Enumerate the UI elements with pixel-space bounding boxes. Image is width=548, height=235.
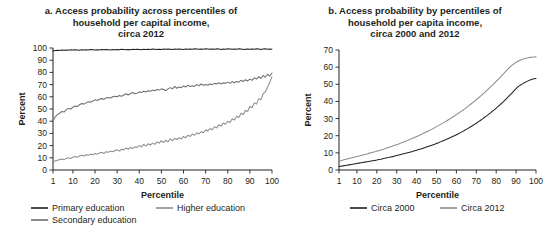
x-tick-label: 20 bbox=[372, 176, 382, 186]
chart-panel-a: a. Access probability across percentiles… bbox=[0, 0, 282, 235]
legend-label: Circa 2000 bbox=[371, 203, 415, 213]
y-axis-title: Percent bbox=[17, 92, 27, 125]
legend-label: Higher education bbox=[177, 203, 245, 213]
y-tick-label: 60 bbox=[324, 62, 334, 72]
y-tick-label: 60 bbox=[38, 92, 48, 102]
x-tick-label: 50 bbox=[432, 176, 442, 186]
legend-label: Secondary education bbox=[52, 215, 137, 225]
y-tick-label: 10 bbox=[38, 153, 48, 163]
y-tick-label: 30 bbox=[38, 128, 48, 138]
y-axis-title: Percent bbox=[303, 93, 313, 126]
x-tick-label: 100 bbox=[529, 176, 543, 186]
x-tick-label: 10 bbox=[352, 176, 362, 186]
x-tick-label: 60 bbox=[452, 176, 462, 186]
series-line bbox=[339, 57, 536, 162]
y-tick-label: 80 bbox=[38, 67, 48, 77]
y-tick-label: 20 bbox=[324, 131, 334, 141]
y-tick-label: 30 bbox=[324, 114, 334, 124]
x-axis-title: Percentile bbox=[416, 190, 459, 200]
chart-panel-b: b. Access probability by percentiles of … bbox=[282, 0, 548, 235]
figure-container: a. Access probability across percentiles… bbox=[0, 0, 548, 235]
x-tick-label: 90 bbox=[511, 176, 521, 186]
x-tick-label: 20 bbox=[90, 176, 100, 186]
panel-b-svg: 0102030405060701102030405060708090100Per… bbox=[282, 0, 548, 235]
series-line bbox=[53, 49, 272, 51]
y-tick-label: 50 bbox=[324, 79, 334, 89]
x-tick-label: 70 bbox=[201, 176, 211, 186]
y-tick-label: 40 bbox=[324, 96, 334, 106]
x-tick-label: 50 bbox=[157, 176, 167, 186]
legend-label: Primary education bbox=[52, 203, 125, 213]
x-axis-title: Percentile bbox=[141, 190, 184, 200]
x-tick-label: 100 bbox=[265, 176, 279, 186]
x-tick-label: 30 bbox=[392, 176, 402, 186]
panel-a-svg: 0102030405060708090100110203040506070809… bbox=[0, 0, 282, 235]
y-tick-label: 90 bbox=[38, 55, 48, 65]
x-tick-label: 80 bbox=[491, 176, 501, 186]
x-tick-label: 70 bbox=[472, 176, 482, 186]
y-tick-label: 70 bbox=[324, 45, 334, 55]
panel-b-plot-host: 0102030405060701102030405060708090100Per… bbox=[282, 0, 548, 235]
panel-a-plot-host: 0102030405060708090100110203040506070809… bbox=[0, 0, 282, 235]
y-tick-label: 0 bbox=[42, 165, 47, 175]
x-tick-label: 10 bbox=[68, 176, 78, 186]
x-tick-label: 1 bbox=[51, 176, 56, 186]
y-tick-label: 50 bbox=[38, 104, 48, 114]
y-tick-label: 10 bbox=[324, 148, 334, 158]
x-tick-label: 40 bbox=[135, 176, 145, 186]
y-tick-label: 70 bbox=[38, 80, 48, 90]
x-tick-label: 1 bbox=[337, 176, 342, 186]
x-tick-label: 40 bbox=[412, 176, 422, 186]
x-tick-label: 30 bbox=[112, 176, 122, 186]
legend-label: Circa 2012 bbox=[461, 203, 505, 213]
y-tick-label: 20 bbox=[38, 141, 48, 151]
x-tick-label: 60 bbox=[179, 176, 189, 186]
y-tick-label: 0 bbox=[328, 165, 333, 175]
x-tick-label: 90 bbox=[245, 176, 255, 186]
y-tick-label: 100 bbox=[33, 43, 47, 53]
x-tick-label: 80 bbox=[223, 176, 233, 186]
y-tick-label: 40 bbox=[38, 116, 48, 126]
series-line bbox=[53, 73, 272, 121]
